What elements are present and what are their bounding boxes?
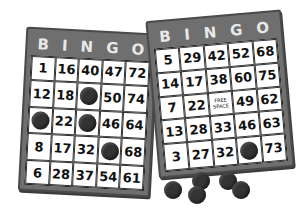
header-letter-o: O (255, 18, 270, 37)
bingo-cell[interactable]: 68 (121, 138, 146, 166)
bingo-grid: 116404772121850742246648173268628375461 (24, 55, 151, 191)
cell-number: 49 (235, 93, 254, 110)
bingo-cell[interactable]: 62 (256, 86, 282, 112)
bingo-cell[interactable]: 74 (123, 85, 148, 113)
bingo-cell[interactable]: 14 (157, 71, 183, 97)
bingo-cell[interactable]: 52 (228, 41, 254, 67)
bingo-cell[interactable] (76, 82, 101, 110)
bingo-cell[interactable]: 61 (119, 165, 144, 190)
bingo-cell[interactable]: 1 (31, 56, 56, 81)
cell-number: 8 (34, 140, 44, 155)
bingo-cell[interactable]: 40 (78, 58, 103, 83)
bingo-cell[interactable]: 46 (234, 112, 260, 138)
cell-number: 28 (189, 121, 208, 138)
bingo-cell[interactable]: 64 (122, 111, 147, 139)
cell-number: 42 (207, 48, 226, 65)
header-letter-g: G (106, 39, 120, 58)
bingo-cell[interactable]: 42 (203, 43, 229, 69)
bingo-cell[interactable]: 22 (51, 108, 76, 136)
free-space-label: FREESPACE (212, 97, 229, 110)
cell-number: 37 (75, 167, 94, 183)
bingo-cell[interactable]: 68 (252, 39, 278, 65)
bingo-cell[interactable]: 29 (179, 45, 205, 71)
cell-number: 54 (99, 168, 118, 184)
header-letter-n: N (203, 23, 218, 42)
cell-number: 47 (104, 64, 123, 80)
cell-number: 17 (185, 74, 204, 91)
cell-number: 38 (209, 71, 228, 88)
bingo-cell[interactable]: 28 (185, 116, 211, 142)
cell-number: 12 (32, 86, 51, 102)
cell-number: 32 (77, 142, 96, 158)
bingo-cell[interactable]: 17 (50, 135, 75, 163)
header-letter-g: G (229, 21, 244, 40)
bingo-cell[interactable]: 50 (100, 83, 125, 111)
bingo-chip-icon (240, 140, 260, 160)
bingo-cell[interactable]: 22 (183, 93, 209, 119)
bingo-cell[interactable]: 13 (161, 118, 187, 144)
bingo-cell[interactable]: 32 (74, 136, 99, 164)
cell-number: 46 (238, 117, 257, 134)
bingo-cell[interactable]: 47 (101, 60, 126, 85)
bingo-cell[interactable]: 38 (206, 67, 232, 93)
bingo-cell[interactable]: 28 (49, 161, 74, 186)
bingo-cell[interactable]: 12 (29, 80, 54, 108)
loose-chip-icon[interactable] (232, 181, 250, 199)
bingo-cell[interactable]: 6 (25, 160, 50, 185)
cell-number: 61 (122, 170, 141, 186)
bingo-cell[interactable]: 60 (230, 65, 256, 91)
bingo-cell[interactable]: 49 (232, 88, 258, 114)
cell-number: 18 (56, 87, 75, 103)
cell-number: 17 (53, 141, 72, 157)
loose-chip-icon[interactable] (164, 181, 182, 199)
bingo-card-left: B I N G O 116404772121850742246648173268… (18, 27, 158, 198)
bingo-cell[interactable]: 46 (99, 110, 124, 138)
bingo-cell[interactable]: 32 (212, 138, 239, 167)
bingo-cell[interactable]: 37 (72, 162, 97, 187)
bingo-cell[interactable]: 17 (181, 69, 207, 95)
bingo-card-right: B I N G O 5294252681417386075722FREESPAC… (145, 9, 294, 178)
bingo-cell[interactable]: 75 (254, 63, 280, 89)
cell-number: 62 (260, 91, 279, 108)
bingo-cell[interactable]: 5 (155, 47, 181, 73)
bingo-cell[interactable] (28, 107, 53, 135)
cell-number: 22 (54, 114, 73, 130)
bingo-chip-icon (79, 87, 98, 106)
header-letter-b: B (158, 27, 172, 46)
cell-number: 1 (38, 61, 48, 76)
bingo-cell[interactable]: 54 (96, 164, 121, 189)
header-letter-n: N (80, 38, 94, 57)
cell-number: 29 (183, 50, 202, 67)
bingo-cell[interactable]: 18 (53, 81, 78, 109)
bingo-cell[interactable]: 27 (187, 140, 214, 169)
bingo-cell[interactable]: 73 (260, 134, 287, 163)
cell-number: 3 (171, 149, 181, 165)
bingo-cell[interactable]: 72 (125, 61, 150, 86)
cell-number: 33 (213, 119, 232, 136)
bingo-cell[interactable]: 7 (159, 95, 185, 121)
bingo-cell[interactable]: 63 (258, 110, 284, 136)
cell-number: 14 (160, 76, 179, 93)
cell-number: 63 (262, 115, 281, 132)
cell-number: 52 (231, 46, 250, 63)
bingo-cell[interactable]: FREESPACE (208, 91, 234, 117)
cell-number: 75 (258, 67, 277, 84)
cell-number: 72 (128, 65, 147, 81)
bingo-cell[interactable] (236, 136, 263, 165)
bingo-cell[interactable]: 8 (26, 133, 51, 161)
bingo-cell[interactable] (97, 137, 122, 165)
bingo-chip-icon (100, 142, 119, 161)
bingo-cell[interactable]: 33 (210, 114, 236, 140)
bingo-cell[interactable]: 3 (163, 142, 190, 171)
bingo-chip-icon (31, 111, 50, 130)
cell-number: 46 (102, 116, 121, 132)
cell-number: 64 (125, 117, 144, 133)
cell-number: 32 (215, 144, 234, 161)
bingo-cell[interactable]: 16 (54, 57, 79, 82)
cell-number: 60 (233, 69, 252, 86)
cell-number: 74 (127, 91, 146, 107)
cell-number: 16 (57, 62, 76, 78)
bingo-cell[interactable] (75, 109, 100, 137)
cell-number: 5 (163, 52, 173, 68)
loose-chip-icon[interactable] (188, 186, 206, 204)
